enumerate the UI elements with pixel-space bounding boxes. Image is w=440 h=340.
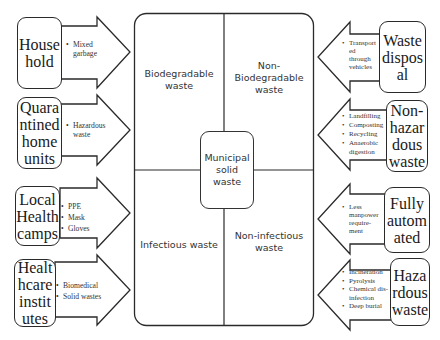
quadrant-biodegradable: Biodegradable waste <box>136 60 222 100</box>
bullet-item: Less manpower require- ment <box>342 203 379 235</box>
outcome-non-hazardous-items: Landfilling Composting Recycling Anaerob… <box>342 112 383 157</box>
center-municipal-solid-waste: Municipal solid waste <box>200 131 254 209</box>
bullet-item: Transport ed through vehicles <box>342 39 376 71</box>
bullet-item: Deep burial <box>342 302 388 311</box>
source-local-health-items: PPE Mask Gloves <box>61 201 90 234</box>
bullet-item: Recycling <box>342 130 383 139</box>
bullet-item: Incineration <box>342 268 388 277</box>
bullet-item: Gloves <box>61 223 90 234</box>
source-healthcare-institutes: Healt hcare instit utes <box>14 259 56 327</box>
source-household: House hold <box>17 17 62 89</box>
source-quarantined-items: Hazardous waste <box>66 121 105 139</box>
outcome-waste-disposal-items: Transport ed through vehicles <box>342 39 376 71</box>
bullet-item: Biomedical <box>56 280 101 291</box>
quadrant-infectious: Infectious waste <box>136 225 222 265</box>
bullet-item: Chemical dis- infection <box>342 285 388 302</box>
source-healthcare-items: Biomedical Solid wastes <box>56 280 101 302</box>
outcome-hazardous-items: Incineration Pyrolysis Chemical dis- inf… <box>342 268 388 311</box>
outcome-fully-automated-items: Less manpower require- ment <box>342 203 379 235</box>
quadrant-non-infectious: Non-infectious waste <box>226 220 312 264</box>
bullet-item: Landfilling <box>342 112 383 121</box>
source-quarantined-home-units: Quara ntined home units <box>17 97 62 169</box>
bullet-item: Mixed garbage <box>66 40 97 58</box>
outcome-non-hazardous-waste: Non- hazar dous waste <box>386 100 428 172</box>
outcome-waste-disposal: Waste dispos al <box>379 21 426 93</box>
source-household-items: Mixed garbage <box>66 40 97 58</box>
outcome-fully-automated: Fully autom ated <box>384 187 430 253</box>
source-local-health-camps: Local Health camps <box>15 186 60 246</box>
bullet-item: Hazardous waste <box>66 121 105 139</box>
bullet-item: Anaerobic digestion <box>342 139 383 157</box>
bullet-item: Composting <box>342 121 383 130</box>
outcome-hazardous-waste: Haza rdous waste <box>390 258 430 326</box>
bullet-item: Pyrolysis <box>342 277 388 286</box>
bullet-item: Mask <box>61 212 90 223</box>
quadrant-non-biodegradable: Non- Biodegradable waste <box>226 56 312 100</box>
bullet-item: Solid wastes <box>56 291 101 302</box>
bullet-item: PPE <box>61 201 90 212</box>
